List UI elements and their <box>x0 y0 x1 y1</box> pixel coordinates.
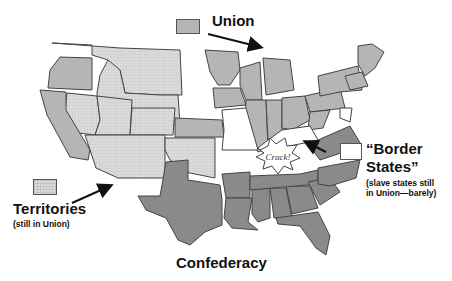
arkansas <box>222 172 250 198</box>
border-states-note-line1: (slave states still <box>366 178 434 188</box>
west-virginia <box>308 110 330 130</box>
confederacy-label: Confederacy <box>176 254 267 271</box>
utah-territory <box>95 96 132 135</box>
kansas <box>175 118 224 137</box>
border-states-legend-swatch <box>340 143 362 160</box>
florida <box>276 212 330 255</box>
crack-text: Crack! <box>266 152 291 162</box>
colorado-territory <box>130 108 175 135</box>
confederacy-label-rest: onfederacy <box>187 254 267 271</box>
border-states-label-line1: “Border <box>366 140 423 157</box>
new-mexico-territory <box>85 135 165 178</box>
wisconsin <box>240 62 262 100</box>
territories-note: (still in Union) <box>13 219 70 229</box>
union-arrow <box>208 34 260 47</box>
union-legend-swatch <box>176 19 200 34</box>
north-carolina <box>318 160 360 186</box>
oregon <box>48 57 92 90</box>
new-england <box>358 44 384 76</box>
border-states-label-line2: States” <box>366 158 419 175</box>
border-states-note-line2: in Union—barely) <box>366 188 436 198</box>
union-label: Union <box>212 12 255 29</box>
minnesota <box>205 50 240 85</box>
mississippi <box>252 188 270 222</box>
confederacy-label-first: C <box>176 254 187 271</box>
iowa <box>213 88 246 108</box>
territories-legend-swatch <box>33 179 57 195</box>
ohio <box>282 96 310 130</box>
maryland-delaware <box>340 108 352 122</box>
territories-label: Territories <box>13 200 86 217</box>
michigan <box>263 58 294 95</box>
